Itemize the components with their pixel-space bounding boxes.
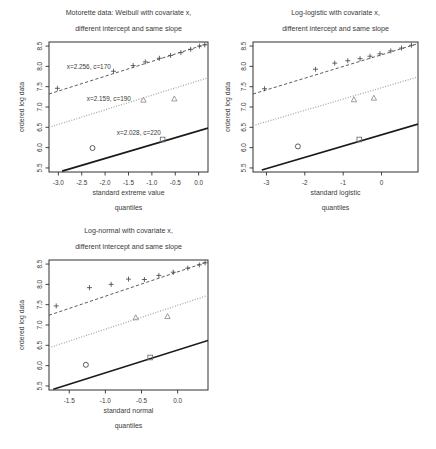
- series-c=170: [54, 260, 208, 308]
- marker-plus: [87, 285, 92, 290]
- fit-line-c=170: [49, 262, 208, 316]
- marker-plus: [185, 266, 190, 271]
- figure-canvas: Motorette data: Weibull with covariate x…: [0, 0, 436, 449]
- y-tick-label: 6.0: [36, 361, 43, 370]
- x-tick-label: 0: [380, 179, 384, 186]
- marker-plus: [171, 270, 176, 275]
- y-tick-label: 8.5: [36, 41, 43, 50]
- panel-lognormal: Log-normal with covariate x,different in…: [0, 218, 225, 449]
- x-axis-label-line2: quantiles: [115, 204, 143, 212]
- marker-triangle: [351, 97, 356, 102]
- y-tick-label: 6.5: [36, 122, 43, 131]
- marker-plus: [188, 47, 193, 52]
- marker-plus: [109, 282, 114, 287]
- y-tick-label: 6.0: [36, 143, 43, 152]
- y-tick-label: 6.5: [240, 122, 247, 131]
- marker-plus: [368, 54, 373, 59]
- marker-plus: [197, 44, 202, 49]
- y-tick-label: 8.0: [36, 279, 43, 288]
- fit-line-c=220: [262, 124, 418, 170]
- marker-plus: [332, 61, 337, 66]
- panel-title-line2: different intercept and same slope: [75, 25, 182, 33]
- y-tick-label: 7.5: [36, 82, 43, 91]
- x-tick-label: -1.0: [146, 179, 157, 186]
- y-tick-label: 8.5: [36, 259, 43, 268]
- y-axis-label: ordered log data: [224, 82, 232, 132]
- plot-annotation: x=2.159, c=190: [87, 95, 132, 102]
- marker-plus: [203, 260, 208, 265]
- marker-plus: [345, 58, 350, 63]
- marker-plus: [197, 262, 202, 267]
- x-tick-label: -2.5: [76, 179, 87, 186]
- y-tick-label: 7.0: [240, 102, 247, 111]
- x-axis-label-line1: standard normal: [104, 407, 154, 414]
- x-tick-label: -3: [264, 179, 270, 186]
- marker-triangle: [172, 96, 177, 101]
- panel-title-line1: Log-normal with covariate x,: [84, 227, 173, 235]
- marker-plus: [168, 53, 173, 58]
- panel-loglogistic: Log-logistic with covariate x,different …: [222, 0, 436, 222]
- y-tick-label: 8.0: [240, 61, 247, 70]
- marker-plus: [178, 50, 183, 55]
- plot-frame: [253, 42, 418, 172]
- x-tick-label: 0.0: [194, 179, 203, 186]
- x-tick-label: -0.5: [136, 397, 147, 404]
- y-tick-label: 6.0: [240, 143, 247, 152]
- y-tick-label: 8.5: [240, 41, 247, 50]
- panel-weibull: Motorette data: Weibull with covariate x…: [0, 0, 225, 222]
- loglogistic-qq-plot: Log-logistic with covariate x,different …: [222, 0, 436, 222]
- x-axis-label-line1: standard logistic: [311, 189, 361, 197]
- x-tick-label: -2: [302, 179, 308, 186]
- marker-triangle: [371, 95, 376, 100]
- marker-plus: [262, 86, 267, 91]
- marker-plus: [54, 303, 59, 308]
- x-tick-label: 0.0: [173, 397, 182, 404]
- marker-circle: [83, 362, 88, 367]
- marker-plus: [55, 86, 60, 91]
- x-axis-label-line1: standard extreme value: [92, 189, 164, 196]
- x-tick-label: -2.0: [100, 179, 111, 186]
- panel-title-line1: Motorette data: Weibull with covariate x…: [66, 9, 192, 17]
- x-tick-label: -1: [340, 179, 346, 186]
- data-layer: x=2.256, c=170x=2.159, c=190x=2.028, c=2…: [49, 42, 208, 171]
- y-tick-label: 5.5: [240, 163, 247, 172]
- x-tick-label: -1.0: [100, 397, 111, 404]
- marker-plus: [313, 67, 318, 72]
- y-tick-label: 8.0: [36, 61, 43, 70]
- y-tick-label: 7.5: [36, 300, 43, 309]
- marker-circle: [295, 144, 300, 149]
- marker-triangle: [165, 314, 170, 319]
- marker-plus: [409, 43, 414, 48]
- series-censored: [83, 362, 88, 367]
- y-tick-label: 7.5: [240, 82, 247, 91]
- plot-annotation: x=2.028, c=220: [117, 129, 162, 136]
- series-censored: [295, 144, 300, 149]
- marker-plus: [399, 46, 404, 51]
- data-layer: [253, 43, 418, 170]
- marker-plus: [131, 63, 136, 68]
- series-c=190: [351, 95, 376, 102]
- fit-line-c=190: [49, 295, 208, 347]
- x-axis-label-line2: quantiles: [115, 422, 143, 430]
- y-tick-label: 7.0: [36, 102, 43, 111]
- y-axis-label: ordered log data: [18, 300, 26, 350]
- series-censored: [90, 146, 95, 151]
- marker-plus: [156, 273, 161, 278]
- panel-title-line2: different intercept and same slope: [282, 25, 389, 33]
- data-layer: [49, 260, 208, 389]
- fit-line-c=190: [253, 77, 418, 126]
- x-tick-label: -1.5: [64, 397, 75, 404]
- plot-annotation: x=2.256, c=170: [67, 63, 112, 70]
- plot-frame: [49, 42, 208, 172]
- marker-plus: [142, 277, 147, 282]
- y-tick-label: 7.0: [36, 320, 43, 329]
- lognormal-qq-plot: Log-normal with covariate x,different in…: [0, 218, 225, 449]
- x-tick-label: -0.5: [170, 179, 181, 186]
- fit-line-c=220: [53, 340, 208, 389]
- panel-title-line2: different intercept and same slope: [75, 243, 182, 251]
- y-tick-label: 5.5: [36, 381, 43, 390]
- panel-title-line1: Log-logistic with covariate x,: [291, 9, 380, 17]
- y-tick-label: 5.5: [36, 163, 43, 172]
- marker-plus: [202, 42, 207, 47]
- x-axis-label-line2: quantiles: [322, 204, 350, 212]
